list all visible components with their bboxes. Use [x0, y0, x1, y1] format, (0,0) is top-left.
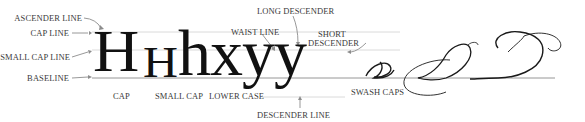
label-ascender-line: ASCENDER LINE — [14, 14, 82, 23]
small-cap-glyph: H — [143, 41, 178, 85]
label-baseline: BASELINE — [27, 74, 69, 83]
label-long-descender: LONG DESCENDER — [257, 7, 334, 16]
label-short-descender-line2: DESCENDER — [308, 39, 359, 48]
swash-cap-large-icon — [470, 32, 543, 79]
swash-cap-small-icon — [366, 62, 394, 78]
baseline-arrow-icon — [72, 77, 88, 78]
label-cap: CAP — [113, 92, 130, 101]
label-lower-case: LOWER CASE — [209, 92, 264, 101]
swash-caps — [366, 32, 561, 96]
cap-glyph: H — [93, 22, 139, 81]
swash-cap-medium-icon — [418, 44, 471, 80]
swash-cap-medium-outer-icon — [404, 60, 450, 95]
label-cap-line: CAP LINE — [31, 29, 70, 38]
small-cap-arrow-icon — [72, 52, 88, 57]
label-swash-caps: SWASH CAPS — [351, 88, 404, 97]
label-small-cap-line: SMALL CAP LINE — [0, 53, 70, 62]
label-waist-line: WAIST LINE — [231, 28, 279, 37]
label-descender-line: DESCENDER LINE — [257, 111, 330, 120]
label-small-cap: SMALL CAP — [155, 92, 203, 101]
